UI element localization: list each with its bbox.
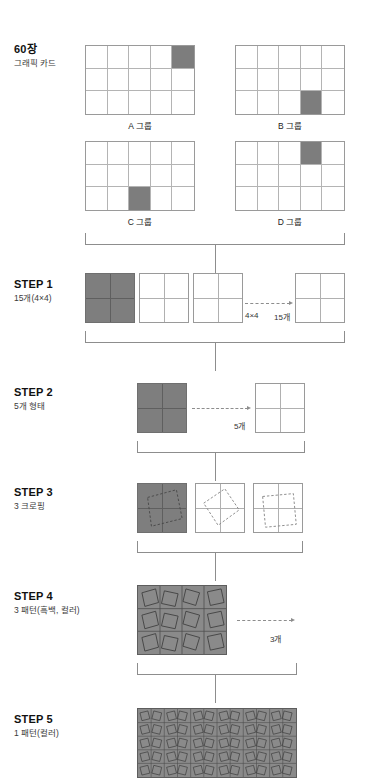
cell	[86, 165, 108, 188]
cell	[129, 91, 151, 114]
cell	[108, 187, 130, 210]
cell	[151, 46, 173, 69]
source-title: 60장	[14, 42, 56, 57]
cell	[129, 69, 151, 92]
cell	[151, 69, 173, 92]
cell	[258, 142, 280, 165]
cell-filled	[301, 142, 323, 165]
square-divider-h	[256, 408, 304, 409]
cell	[151, 165, 173, 188]
step1-note-left: 4×4	[245, 311, 259, 320]
cell	[108, 69, 130, 92]
step3-subtitle: 3 크로핑	[14, 501, 53, 512]
step5-pattern-lines	[138, 709, 296, 777]
cell	[151, 142, 173, 165]
cell	[322, 46, 344, 69]
step5-label: STEP 5 1 패턴(컬러)	[14, 712, 59, 739]
step5-subtitle: 1 패턴(컬러)	[14, 728, 59, 739]
cell	[301, 187, 323, 210]
cell	[236, 46, 258, 69]
step3-square-2	[195, 483, 245, 533]
step3-label: STEP 3 3 크로핑	[14, 485, 53, 512]
cell	[86, 142, 108, 165]
connector-line-step4-step5	[215, 675, 216, 703]
cell	[322, 165, 344, 188]
card-d-grid	[236, 142, 344, 210]
cell	[279, 142, 301, 165]
step4-note-right: 3개	[270, 633, 281, 644]
step4-arrowhead-icon	[291, 618, 295, 622]
cell	[151, 91, 173, 114]
step1-note-right: 15개	[274, 311, 290, 322]
step5-pattern-block	[137, 708, 297, 778]
cell	[279, 46, 301, 69]
step4-subtitle: 3 패턴(흑백, 컬러)	[14, 605, 79, 616]
card-a	[85, 45, 195, 115]
step1-arrowhead-icon	[289, 301, 293, 305]
cell	[258, 165, 280, 188]
step2-dashed-arrow	[192, 408, 248, 410]
card-c-caption: C 그룹	[85, 215, 195, 227]
connector-bracket-step1	[85, 331, 345, 343]
cell	[279, 69, 301, 92]
cell	[236, 165, 258, 188]
cell	[236, 91, 258, 114]
step4-pattern-lines	[138, 586, 226, 654]
connector-line-step2-step3	[215, 453, 216, 481]
cell	[301, 69, 323, 92]
step1-square-last	[295, 273, 345, 323]
connector-bracket-step4	[137, 663, 297, 675]
cell	[108, 142, 130, 165]
step2-arrowhead-icon	[247, 406, 251, 410]
cell	[172, 165, 194, 188]
cell	[322, 91, 344, 114]
step2-title: STEP 2	[14, 385, 53, 400]
cell	[258, 69, 280, 92]
cell	[108, 91, 130, 114]
connector-bracket-source	[85, 233, 345, 245]
connector-bracket-step2	[137, 441, 305, 453]
cell	[108, 46, 130, 69]
step3-square-1	[137, 483, 187, 533]
cell	[172, 91, 194, 114]
cell	[236, 69, 258, 92]
card-a-caption: A 그룹	[85, 119, 195, 131]
card-b-grid	[236, 46, 344, 114]
cell	[301, 165, 323, 188]
step1-title: STEP 1	[14, 277, 53, 292]
step4-label: STEP 4 3 패턴(흑백, 컬러)	[14, 589, 79, 616]
cell-filled	[172, 46, 194, 69]
step1-dashed-arrow	[245, 303, 290, 305]
cell	[86, 187, 108, 210]
crop-outline-icon	[254, 484, 302, 532]
step2-square-filled	[137, 383, 187, 433]
cell	[86, 46, 108, 69]
cell	[172, 69, 194, 92]
step2-note-right: 5개	[234, 420, 245, 431]
step4-title: STEP 4	[14, 589, 79, 604]
diagram-canvas: 60장 그래픽 카드 A 그룹 B 그룹 C 그룹	[0, 0, 372, 782]
card-a-grid	[86, 46, 194, 114]
step4-pattern-block	[137, 585, 227, 655]
step2-square-result	[255, 383, 305, 433]
source-subtitle: 그래픽 카드	[14, 58, 56, 69]
cell	[236, 142, 258, 165]
cell	[322, 187, 344, 210]
cell	[258, 46, 280, 69]
square-divider-h	[140, 298, 188, 299]
square-divider-h	[86, 298, 134, 299]
step5-title: STEP 5	[14, 712, 59, 727]
step1-square-2	[139, 273, 189, 323]
cell-filled	[301, 91, 323, 114]
card-c	[85, 141, 195, 211]
cell	[86, 69, 108, 92]
square-divider-h	[138, 408, 186, 409]
cell	[258, 91, 280, 114]
source-label: 60장 그래픽 카드	[14, 42, 56, 69]
step1-square-3	[193, 273, 243, 323]
step3-title: STEP 3	[14, 485, 53, 500]
square-divider-h	[296, 298, 344, 299]
crop-outline-icon	[196, 484, 244, 532]
crop-outline-icon	[138, 484, 186, 532]
cell	[258, 187, 280, 210]
